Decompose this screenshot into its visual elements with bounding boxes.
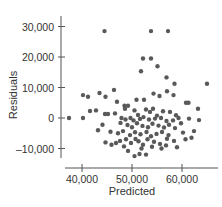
x-tick-label: 50,000 — [116, 173, 148, 185]
residuals-scatter-plot: –10,000010,00020,00030,000 40,00050,0006… — [0, 0, 222, 207]
data-point — [100, 123, 104, 127]
data-point — [167, 123, 171, 127]
data-point — [142, 98, 146, 102]
data-point — [139, 69, 143, 73]
data-point — [166, 29, 170, 33]
data-point — [175, 145, 179, 149]
data-point — [145, 137, 149, 141]
data-point — [173, 126, 177, 130]
y-axis: –10,000010,00020,00030,000 — [16, 16, 65, 158]
data-point — [137, 152, 141, 156]
data-point — [140, 124, 144, 128]
data-point — [136, 113, 140, 117]
data-point — [159, 116, 163, 120]
x-tick-label: 60,000 — [166, 173, 198, 185]
data-point — [134, 98, 138, 102]
data-point — [152, 140, 156, 144]
data-point — [119, 116, 123, 120]
data-point — [187, 116, 191, 120]
data-point — [109, 143, 113, 147]
data-point — [86, 95, 90, 99]
data-point — [151, 107, 155, 111]
data-point — [103, 140, 107, 144]
data-point — [118, 121, 122, 125]
data-point — [205, 82, 209, 86]
data-point — [153, 116, 157, 120]
data-point — [122, 144, 126, 148]
data-point — [135, 121, 139, 125]
data-point — [67, 116, 71, 120]
data-point — [123, 107, 127, 111]
data-point — [151, 91, 155, 95]
data-point — [126, 149, 130, 153]
data-point — [118, 139, 122, 143]
data-point — [144, 107, 148, 111]
data-point — [115, 100, 119, 104]
data-point — [81, 93, 85, 97]
data-point — [94, 108, 98, 112]
data-point — [131, 118, 135, 122]
data-point — [186, 101, 190, 105]
x-axis-label: Predicted — [109, 185, 155, 197]
data-point — [125, 123, 129, 127]
data-point — [149, 134, 153, 138]
data-point — [88, 109, 92, 113]
data-point — [132, 108, 136, 112]
data-point — [156, 123, 160, 127]
y-tick-label: 20,000 — [22, 51, 54, 63]
data-point — [97, 91, 101, 95]
data-point — [139, 146, 143, 150]
data-point — [150, 122, 154, 126]
data-point — [159, 146, 163, 150]
y-tick-label: 10,000 — [22, 82, 54, 94]
data-point — [132, 154, 136, 158]
data-point — [149, 56, 153, 60]
data-point — [154, 132, 158, 136]
data-point — [164, 75, 168, 79]
data-point — [197, 118, 201, 122]
data-point — [160, 130, 164, 134]
data-point — [141, 115, 145, 119]
data-point — [168, 110, 172, 114]
data-point — [136, 139, 140, 143]
data-point — [96, 128, 100, 132]
data-point — [116, 131, 120, 135]
data-point — [128, 133, 132, 137]
data-point — [102, 29, 106, 33]
data-point — [165, 89, 169, 93]
data-point — [162, 125, 166, 129]
data-point — [150, 145, 154, 149]
data-point — [138, 132, 142, 136]
data-point — [144, 130, 148, 134]
data-point — [121, 129, 125, 133]
data-point — [114, 141, 118, 145]
data-point — [179, 121, 183, 125]
x-axis: 40,00050,00060,000 — [65, 164, 218, 185]
y-tick-label: –10,000 — [16, 143, 54, 155]
data-point — [113, 111, 117, 115]
y-axis-label: Residuals — [7, 70, 19, 119]
data-point — [171, 118, 175, 122]
data-point — [141, 56, 145, 60]
data-point — [147, 117, 151, 121]
data-point — [171, 93, 175, 97]
data-point — [172, 139, 176, 143]
data-point — [124, 137, 128, 141]
data-point — [164, 119, 168, 123]
data-point — [144, 152, 148, 156]
y-tick-label: 0 — [48, 112, 54, 124]
data-point — [181, 130, 185, 134]
data-point — [129, 141, 133, 145]
data-point — [189, 136, 193, 140]
data-point — [108, 130, 112, 134]
data-point — [161, 109, 165, 113]
data-point — [172, 82, 176, 86]
data-point — [155, 64, 159, 68]
data-point — [149, 29, 153, 33]
data-point — [133, 130, 137, 134]
data-point — [103, 95, 107, 99]
data-point — [146, 125, 150, 129]
data-point — [165, 137, 169, 141]
data-point — [112, 88, 116, 92]
data-point — [123, 117, 127, 121]
